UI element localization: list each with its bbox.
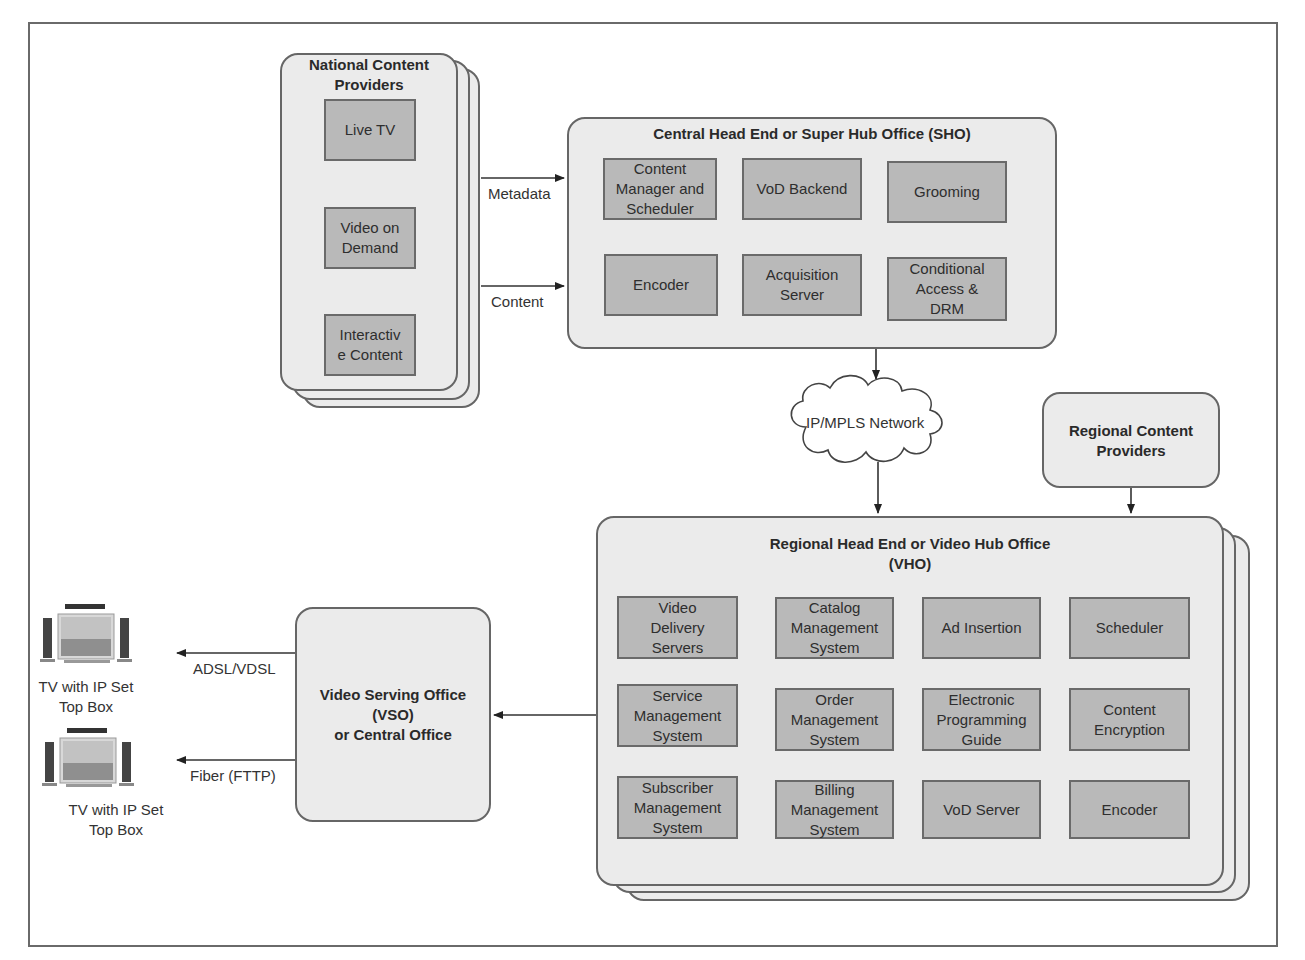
network-label: IP/MPLS Network [806,413,924,433]
adsl-label: ADSL/VDSL [193,659,276,679]
connectors-layer [0,0,1305,960]
tv-2-label: TV with IP Set Top Box [58,800,174,840]
tv-icon [42,728,134,787]
metadata-label: Metadata [488,184,551,204]
fiber-label: Fiber (FTTP) [190,766,276,786]
tv-1-label: TV with IP Set Top Box [30,677,142,717]
tv-icon [40,604,132,663]
content-label: Content [491,292,544,312]
